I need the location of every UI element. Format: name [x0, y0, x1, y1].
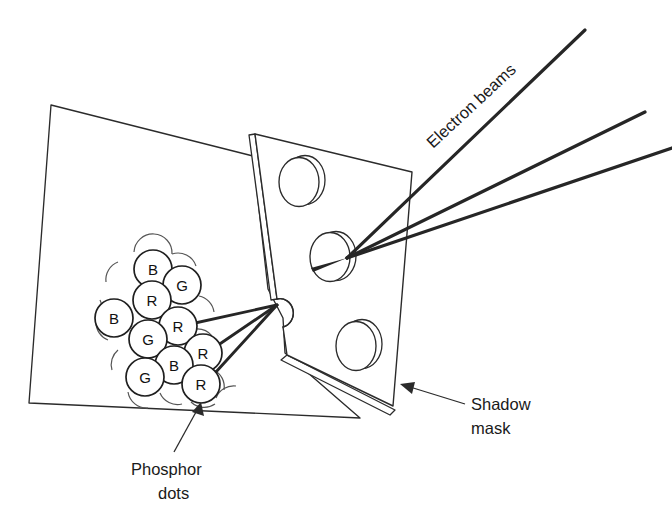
mask-hole-lower [336, 320, 382, 371]
shadow-mask-arrowhead [400, 382, 415, 394]
callout-phosphor-dots: Phosphor dots [131, 402, 204, 502]
phosphor-dot-label: B [109, 310, 119, 327]
diagram-canvas: B G R B R G R B G R [0, 0, 672, 520]
callout-shadow-mask: Shadow mask [400, 382, 531, 437]
shadow-mask-label-line1: Shadow [471, 395, 531, 413]
mask-hole-upper [279, 156, 325, 207]
phosphor-dot-label: G [176, 277, 188, 294]
phosphor-dot-label: R [196, 376, 207, 393]
phosphor-dot-label: G [139, 369, 151, 386]
phosphor-dot-label: R [147, 292, 158, 309]
phosphor-dot-label: R [173, 318, 184, 335]
phosphor-dots-label-line1: Phosphor [131, 460, 202, 478]
phosphor-dots-leader [174, 412, 196, 452]
shadow-mask-leader [410, 387, 465, 404]
phosphor-dot-label: G [142, 331, 154, 348]
shadow-mask-diagram: B G R B R G R B G R [0, 0, 672, 520]
phosphor-dot-label: R [198, 345, 209, 362]
electron-beam-1 [347, 30, 585, 258]
phosphor-dot-label: B [148, 261, 158, 278]
shadow-mask-label-line2: mask [471, 419, 511, 437]
phosphor-dots-label-line2: dots [158, 484, 189, 502]
phosphor-dot-label: B [169, 357, 179, 374]
